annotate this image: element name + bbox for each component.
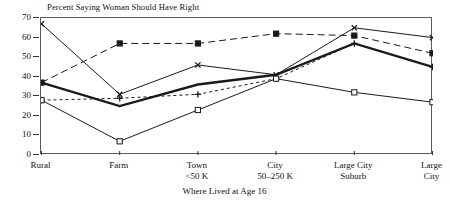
data-point-filled-square [430, 51, 433, 56]
data-point-open-square [352, 90, 357, 95]
y-tick-mark [33, 134, 39, 135]
y-axis: 010203040506070 [0, 17, 38, 154]
series-line [42, 43, 433, 106]
chart-title: Percent Saying Woman Should Have Right [47, 2, 199, 12]
data-point-open-square [274, 76, 279, 81]
y-tick-label: 0 [27, 150, 32, 159]
x-tick-label: Town<50 K [185, 160, 208, 182]
y-tick-mark [33, 154, 39, 155]
y-tick-label: 30 [22, 91, 31, 100]
series-layer [41, 18, 433, 155]
chart-figure: Percent Saying Woman Should Have Right 0… [0, 0, 449, 208]
x-tick-label: Rural [31, 160, 51, 171]
y-tick-mark [33, 76, 39, 77]
series-line [42, 43, 433, 100]
x-tick-label: City50–250 K [257, 160, 293, 182]
data-point-plus [429, 64, 433, 70]
data-point-open-square [41, 98, 44, 103]
y-tick-label: 70 [22, 13, 31, 22]
series-x [41, 21, 433, 97]
data-point-open-square [117, 139, 122, 144]
y-tick-label: 10 [22, 130, 31, 139]
series-none [42, 43, 433, 106]
series-line [42, 24, 433, 94]
data-point-plus [195, 91, 201, 97]
x-tick-label: Large CitySuburb [334, 160, 373, 182]
data-point-x [41, 21, 44, 26]
series-open-square [41, 76, 433, 144]
y-tick-mark [33, 17, 39, 18]
x-tick-label: Farm [109, 160, 128, 171]
x-tick-label: LargeCity [421, 160, 442, 182]
x-axis-title: Where Lived at Age 16 [0, 186, 449, 196]
data-point-filled-square [117, 41, 122, 46]
data-point-filled-square [195, 41, 200, 46]
y-tick-mark [33, 95, 39, 96]
y-tick-mark [33, 56, 39, 57]
plot-area [40, 17, 432, 154]
series-line [42, 34, 433, 83]
series-line [42, 79, 433, 142]
y-tick-label: 20 [22, 110, 31, 119]
data-point-filled-square [352, 33, 357, 38]
data-point-open-square [430, 100, 433, 105]
data-point-open-square [195, 107, 200, 112]
y-tick-label: 40 [22, 71, 31, 80]
y-tick-mark [33, 37, 39, 38]
data-point-plus [351, 40, 357, 46]
y-tick-label: 50 [22, 52, 31, 61]
data-point-filled-square [274, 31, 279, 36]
y-tick-label: 60 [22, 32, 31, 41]
y-tick-mark [33, 115, 39, 116]
